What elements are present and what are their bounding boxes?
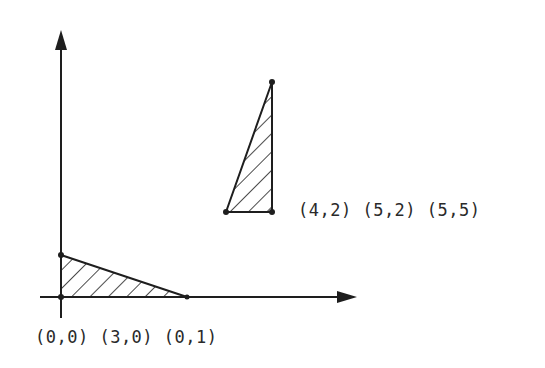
vertex-0-0 bbox=[58, 294, 64, 300]
coordinate-diagram bbox=[0, 0, 545, 368]
y-axis-arrow-icon bbox=[55, 30, 67, 50]
transformed-triangle bbox=[220, 78, 278, 218]
vertex-3-0 bbox=[185, 295, 190, 300]
transformed-triangle-label: (4,2) (5,2) (5,5) bbox=[298, 200, 481, 220]
vertex-0-1 bbox=[58, 252, 64, 258]
vertex-5-5 bbox=[269, 79, 275, 85]
original-triangle-label: (0,0) (3,0) (0,1) bbox=[35, 327, 218, 347]
vertex-4-2 bbox=[223, 209, 229, 215]
vertex-5-2 bbox=[269, 209, 275, 215]
x-axis-arrow-icon bbox=[337, 291, 357, 303]
original-triangle bbox=[55, 250, 195, 300]
